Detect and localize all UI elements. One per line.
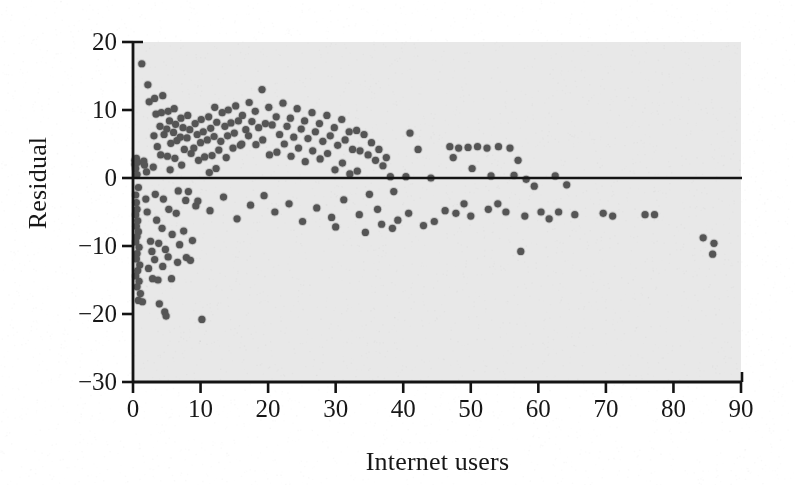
y-tick-label: 20 bbox=[59, 29, 117, 54]
y-tick-label: −10 bbox=[59, 233, 117, 258]
y-tick-label: 0 bbox=[59, 165, 117, 190]
y-axis-label: Residual bbox=[23, 83, 53, 283]
y-tick-label: 10 bbox=[59, 97, 117, 122]
x-tick-label: 20 bbox=[238, 396, 298, 421]
x-tick-label: 0 bbox=[103, 396, 163, 421]
x-tick-label: 50 bbox=[441, 396, 501, 421]
x-tick-label: 60 bbox=[508, 396, 568, 421]
x-tick-label: 40 bbox=[373, 396, 433, 421]
x-axis-label: Internet users bbox=[133, 447, 742, 477]
x-tick-label: 90 bbox=[711, 396, 771, 421]
y-tick-label: −20 bbox=[59, 301, 117, 326]
x-tick-label: 30 bbox=[306, 396, 366, 421]
x-tick-label: 70 bbox=[576, 396, 636, 421]
residual-plot-figure: Residual Internet users 20100−10−20−30 0… bbox=[0, 0, 795, 485]
y-tick-label: −30 bbox=[59, 369, 117, 394]
x-tick-label: 10 bbox=[171, 396, 231, 421]
x-tick-label: 80 bbox=[643, 396, 703, 421]
